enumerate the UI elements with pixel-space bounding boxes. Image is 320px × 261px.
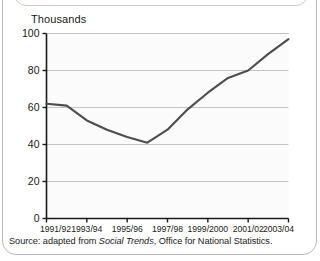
y-axis-tick-label: 0 bbox=[34, 212, 40, 224]
plot-background bbox=[47, 34, 289, 219]
x-axis-tick-label: 1995/96 bbox=[112, 224, 143, 234]
source-publication: Social Trends bbox=[99, 236, 154, 246]
y-axis-tick-label: 80 bbox=[28, 64, 40, 76]
chart-plot-svg: 0204060801001991/921993/941995/961997/98… bbox=[0, 0, 320, 261]
x-axis-tick-label: 1993/94 bbox=[71, 224, 102, 234]
x-axis-tick-label: 1999/2000 bbox=[188, 224, 229, 234]
y-axis-tick-label: 40 bbox=[28, 138, 40, 150]
source-prefix: Source: adapted from bbox=[9, 236, 99, 246]
chart-figure: Thousands 0204060801001991/921993/941995… bbox=[0, 0, 320, 261]
x-axis-tick-label: 2001/02 bbox=[233, 224, 264, 234]
source-suffix: , Office for National Statistics. bbox=[154, 236, 273, 246]
line-chart: Thousands 0204060801001991/921993/941995… bbox=[0, 0, 320, 261]
y-axis-tick-label: 100 bbox=[22, 27, 40, 39]
y-axis-tick-label: 60 bbox=[28, 101, 40, 113]
x-axis-tick-label: 1997/98 bbox=[152, 224, 183, 234]
x-axis-tick-label: 1991/92 bbox=[40, 224, 71, 234]
y-axis-tick-label: 20 bbox=[28, 175, 40, 187]
x-axis-tick-label: 2003/04 bbox=[263, 224, 294, 234]
source-note: Source: adapted from Social Trends, Offi… bbox=[9, 236, 272, 246]
